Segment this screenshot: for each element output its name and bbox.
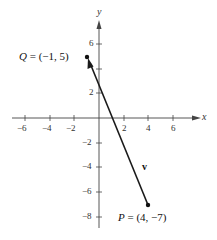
x-axis-label: x — [202, 112, 206, 122]
y-tick-label: −6 — [82, 187, 92, 196]
point-p-name: P — [118, 211, 125, 223]
y-tick-label: −4 — [82, 162, 92, 171]
point-q-name: Q — [19, 50, 27, 62]
point-p — [146, 203, 150, 207]
coordinate-plane — [0, 0, 217, 240]
point-q-coords: = (−1, 5) — [30, 50, 69, 62]
x-tick-label: 2 — [122, 124, 127, 133]
x-axis-arrow-icon — [192, 116, 201, 121]
point-q-label: Q = (−1, 5) — [19, 51, 69, 62]
x-tick-label: 6 — [171, 124, 176, 133]
point-p-coords: = (4, −7) — [127, 211, 166, 223]
y-tick-label: 2 — [89, 88, 94, 97]
point-p-label: P = (4, −7) — [118, 212, 166, 223]
y-tick-label: −2 — [82, 138, 92, 147]
y-axis-arrow-icon — [97, 20, 102, 29]
x-tick-label: −2 — [66, 124, 76, 133]
y-tick-label: −8 — [82, 212, 92, 221]
y-tick-label: 6 — [89, 39, 94, 48]
x-tick-label: 4 — [146, 124, 151, 133]
point-q — [85, 55, 89, 59]
x-tick-label: −6 — [17, 124, 27, 133]
y-axis-label: y — [97, 7, 101, 17]
x-tick-label: −4 — [42, 124, 52, 133]
vector-v-label: v — [142, 162, 147, 172]
